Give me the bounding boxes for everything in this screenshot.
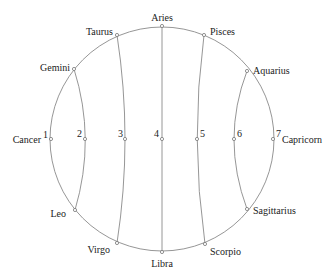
marker-virgo	[115, 241, 118, 244]
marker-aquarius	[245, 69, 248, 72]
point-3	[123, 137, 126, 140]
point-5	[195, 137, 198, 140]
label-point-3: 3	[118, 128, 123, 139]
label-libra: Libra	[151, 258, 173, 269]
point-4	[160, 137, 163, 140]
marker-sagittarius	[245, 207, 248, 210]
label-sagittarius: Sagittarius	[253, 205, 296, 216]
label-point-1: 1	[43, 129, 48, 140]
label-point-7: 7	[276, 128, 281, 139]
label-taurus: Taurus	[86, 26, 113, 37]
point-2	[83, 137, 86, 140]
point-6	[232, 137, 235, 140]
marker-taurus	[115, 33, 118, 36]
point-1	[49, 137, 52, 140]
label-pisces: Pisces	[210, 26, 235, 37]
marker-leo	[73, 208, 76, 211]
label-scorpio: Scorpio	[210, 246, 241, 257]
point-7	[271, 137, 274, 140]
arc-aquarius-sagittarius	[234, 71, 247, 209]
label-gemini: Gemini	[40, 62, 70, 73]
label-leo: Leo	[50, 208, 66, 219]
marker-gemini	[72, 67, 75, 70]
label-point-4: 4	[154, 128, 159, 139]
label-virgo: Virgo	[87, 244, 110, 255]
label-point-2: 2	[77, 128, 82, 139]
label-point-5: 5	[200, 128, 205, 139]
zodiac-diagram: Aries Taurus Gemini Cancer Leo Virgo Lib…	[0, 0, 330, 279]
marker-aries	[160, 24, 163, 27]
label-cancer: Cancer	[13, 134, 42, 145]
marker-libra	[160, 250, 163, 253]
label-point-6: 6	[237, 128, 242, 139]
label-aquarius: Aquarius	[253, 65, 290, 76]
marker-pisces	[202, 33, 205, 36]
label-aries: Aries	[151, 12, 173, 23]
label-capricorn: Capricorn	[282, 134, 322, 145]
marker-scorpio	[203, 242, 206, 245]
